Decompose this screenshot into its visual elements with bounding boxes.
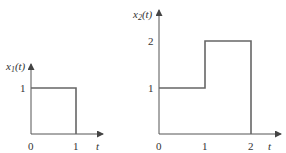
x2-signal <box>159 41 251 134</box>
x1-ytick-1: 1 <box>20 82 26 94</box>
signal-plots: x1(t) 1 0 1 t x2(t) 1 2 0 1 2 t <box>0 0 286 153</box>
x2-ytick-1: 1 <box>148 82 154 94</box>
plot-x2: x2(t) 1 2 0 1 2 t <box>132 8 281 152</box>
x2-ylabel: x2(t) <box>132 8 153 22</box>
x2-ytick-2: 2 <box>148 35 154 47</box>
x1-xlabel: t <box>96 140 100 152</box>
x1-xtick-1: 1 <box>73 140 79 152</box>
x1-xtick-0: 0 <box>28 140 34 152</box>
plot-x1: x1(t) 1 0 1 t <box>5 60 103 152</box>
x2-xlabel: t <box>268 140 272 152</box>
x2-xtick-1: 1 <box>202 140 208 152</box>
x2-xtick-2: 2 <box>248 140 254 152</box>
x1-ylabel: x1(t) <box>5 60 26 74</box>
x2-xtick-0: 0 <box>156 140 162 152</box>
x1-signal <box>31 88 76 134</box>
